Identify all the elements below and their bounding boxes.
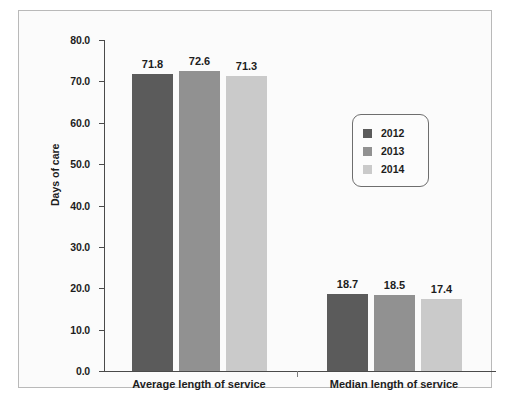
- bar-average-2013: 72.6: [179, 71, 220, 371]
- y-tick-10: 10.0: [99, 330, 105, 331]
- bar-average-2014: 71.3: [226, 76, 267, 371]
- bar-median-2012: 18.7: [327, 294, 368, 371]
- y-tick-60: 60.0: [99, 123, 105, 124]
- y-tick-label-20: 20.0: [70, 282, 90, 294]
- legend-swatch-icon-2013: [363, 147, 372, 156]
- bar-value-median-2013: 18.5: [384, 279, 405, 291]
- legend-swatch-icon-2012: [363, 129, 372, 138]
- bar-value-median-2012: 18.7: [337, 278, 358, 290]
- legend-label-2014: 2014: [381, 163, 404, 175]
- y-tick-label-40: 40.0: [70, 200, 90, 212]
- x-label-average-length-of-service: Average length of service: [132, 378, 265, 390]
- bar-value-average-2013: 72.6: [189, 55, 210, 67]
- y-tick-label-80: 80.0: [70, 34, 90, 46]
- legend-label-2013: 2013: [381, 145, 404, 157]
- chart-screenshot: 80.0 70.0 60.0 50.0 40.0 30.0 20.0 10.0: [0, 0, 510, 411]
- legend: 2012 2013 2014: [352, 114, 429, 187]
- group-separator-tick: [297, 371, 298, 377]
- y-tick-0: 0.0: [99, 371, 105, 372]
- y-axis-title: Days of care: [49, 144, 61, 206]
- y-tick-label-30: 30.0: [70, 241, 90, 253]
- y-tick-label-0: 0.0: [76, 365, 90, 377]
- x-axis-line: [104, 371, 496, 372]
- bar-value-median-2014: 17.4: [431, 283, 452, 295]
- legend-label-2012: 2012: [381, 127, 404, 139]
- y-tick-50: 50.0: [99, 164, 105, 165]
- y-tick-70: 70.0: [99, 81, 105, 82]
- y-tick-20: 20.0: [99, 288, 105, 289]
- y-tick-30: 30.0: [99, 247, 105, 248]
- legend-swatch-icon-2014: [363, 165, 372, 174]
- x-label-median-length-of-service: Median length of service: [330, 378, 458, 390]
- y-tick-label-50: 50.0: [70, 158, 90, 170]
- y-tick-label-70: 70.0: [70, 75, 90, 87]
- legend-item-2013: 2013: [363, 142, 428, 160]
- y-tick-label-10: 10.0: [70, 324, 90, 336]
- bar-median-2013: 18.5: [374, 295, 415, 372]
- chart-frame: 80.0 70.0 60.0 50.0 40.0 30.0 20.0 10.0: [18, 10, 492, 388]
- legend-item-2014: 2014: [363, 160, 428, 178]
- plot-area: 80.0 70.0 60.0 50.0 40.0 30.0 20.0 10.0: [104, 40, 496, 371]
- bar-value-average-2014: 71.3: [236, 60, 257, 72]
- y-tick-40: 40.0: [99, 206, 105, 207]
- legend-item-2012: 2012: [363, 124, 428, 142]
- y-tick-80: 80.0: [99, 40, 105, 41]
- bar-value-average-2012: 71.8: [142, 58, 163, 70]
- bar-median-2014: 17.4: [421, 299, 462, 371]
- bar-average-2012: 71.8: [132, 74, 173, 371]
- y-tick-label-60: 60.0: [70, 117, 90, 129]
